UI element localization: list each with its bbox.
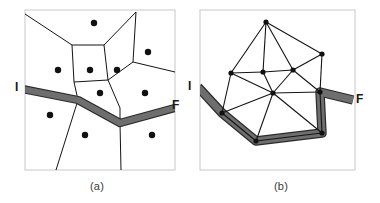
triangulation-node [263, 19, 268, 24]
triangulation-node [219, 110, 224, 115]
voronoi-site-point [114, 67, 120, 73]
panel-b-caption: (b) [274, 180, 288, 192]
panel-a-start-label: I [15, 80, 18, 94]
triangulation-node [253, 138, 258, 143]
voronoi-site-point [142, 90, 148, 96]
triangulation-node [319, 51, 324, 56]
voronoi-site-point [47, 112, 53, 118]
voronoi-site-point [87, 67, 93, 73]
voronoi-site-point [145, 49, 151, 55]
triangulation-node [228, 70, 233, 75]
panel-a-finish-label: F [172, 98, 179, 112]
triangulation-node [270, 90, 275, 95]
figure-canvas [0, 0, 380, 203]
panel-a-caption: (a) [90, 180, 104, 192]
triangulation-node [317, 89, 322, 94]
triangulation-node [319, 130, 324, 135]
voronoi-site-point [149, 132, 155, 138]
voronoi-site-point [91, 20, 97, 26]
triangulation-node [260, 69, 265, 74]
voronoi-site-point [82, 132, 88, 138]
triangulation-node [290, 67, 295, 72]
voronoi-site-point [97, 90, 103, 96]
panel-b-start-label: I [188, 79, 191, 93]
panel-b-finish-label: F [356, 92, 363, 106]
voronoi-site-point [55, 67, 61, 73]
